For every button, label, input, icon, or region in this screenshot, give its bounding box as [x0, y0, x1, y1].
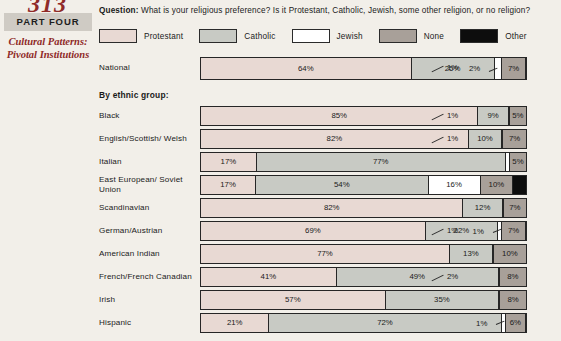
segment-other	[513, 176, 526, 194]
segment-catholic: 49%	[337, 268, 499, 286]
textbook-page: 313 PART FOUR Cultural Patterns: Pivotal…	[0, 0, 561, 341]
sliver-label-jewish: 2%	[469, 64, 480, 73]
table-row: Black85%9%5%1%	[99, 104, 561, 127]
table-row: French/French Canadian41%49%8%2%	[99, 265, 561, 288]
ethnic-rows: Black85%9%5%1%English/Scottish/ Welsh82%…	[99, 104, 561, 334]
legend-swatch-none	[379, 29, 417, 43]
segment-none: 8%	[500, 268, 526, 286]
stacked-bar: 69%22%7%1%	[200, 221, 527, 241]
callout-value: 1%	[447, 226, 458, 235]
table-row: American Indian77%13%10%	[99, 242, 561, 265]
segment-none: 7%	[503, 130, 526, 148]
callout-value: 1%	[447, 134, 458, 143]
group-header: By ethnic group:	[99, 90, 561, 100]
segment-none: 10%	[481, 176, 514, 194]
segment-protestant: 64%	[201, 58, 412, 79]
segment-protestant: 57%	[201, 291, 386, 309]
table-row: East European/ Soviet Union17%54%16%10%	[99, 173, 561, 196]
page-rail: 313 PART FOUR Cultural Patterns: Pivotal…	[0, 0, 95, 341]
part-banner-label: PART FOUR	[4, 13, 92, 31]
legend-swatch-other	[460, 29, 498, 43]
callout-other: 2%	[432, 272, 458, 281]
legend-swatch-jewish	[292, 29, 330, 43]
segment-catholic: 12%	[463, 199, 502, 217]
stacked-bar: 57%35%8%	[200, 290, 527, 310]
segment-none: 7%	[504, 199, 526, 217]
legend-label: Protestant	[144, 32, 183, 41]
segment-protestant: 82%	[201, 130, 469, 148]
part-banner: PART FOUR	[4, 13, 92, 31]
row-label: Italian	[99, 157, 200, 167]
legend-label: Catholic	[244, 32, 275, 41]
question-text: What is your religious preference? Is it…	[141, 6, 530, 15]
legend-label: Jewish	[337, 32, 363, 41]
table-row: German/Austrian69%22%7%1%1%	[99, 219, 561, 242]
stacked-bar: 85%9%5%	[200, 106, 527, 126]
segment-catholic: 35%	[386, 291, 500, 309]
segment-none: 7%	[502, 222, 526, 240]
row-label: English/Scottish/ Welsh	[99, 134, 200, 144]
segment-catholic: 9%	[478, 107, 508, 125]
legend-swatch-catholic	[199, 29, 237, 43]
segment-protestant: 77%	[201, 245, 450, 263]
segment-protestant: 21%	[201, 314, 269, 332]
segment-protestant: 17%	[201, 153, 257, 171]
segment-catholic: 13%	[450, 245, 493, 263]
segment-jewish: 16%	[429, 176, 481, 194]
callout-other: 1%	[432, 134, 458, 143]
table-row: Irish57%35%8%	[99, 288, 561, 311]
table-row: Hispanic21%72%6%1%	[99, 311, 561, 334]
segment-catholic: 54%	[256, 176, 429, 194]
row-label: American Indian	[99, 249, 200, 259]
legend-item-catholic: Catholic	[199, 29, 275, 43]
stacked-bar: 77%13%10%	[200, 244, 527, 264]
stacked-bar: 21%72%6%1%	[200, 313, 527, 333]
legend-item-none: None	[379, 29, 444, 43]
row-label: Irish	[99, 295, 200, 305]
national-block: National64%25%7%2%1%	[99, 55, 561, 81]
segment-none: 5%	[510, 153, 526, 171]
stacked-bar: 64%25%7%2%	[200, 57, 527, 80]
segment-protestant: 82%	[201, 199, 463, 217]
row-label: National	[99, 63, 200, 73]
segment-catholic: 72%	[269, 314, 501, 332]
table-row: Scandinavian82%12%7%	[99, 196, 561, 219]
stacked-bar-chart: National64%25%7%2%1% By ethnic group: Bl…	[99, 55, 561, 334]
segment-none: 6%	[506, 314, 526, 332]
stacked-bar: 17%54%16%10%	[200, 175, 527, 195]
legend-swatch-protestant	[99, 29, 137, 43]
callout-value: 1%	[447, 111, 458, 120]
row-label: German/Austrian	[99, 226, 200, 236]
segment-none: 5%	[510, 107, 526, 125]
row-label: Black	[99, 111, 200, 121]
table-row: Italian17%77%5%	[99, 150, 561, 173]
sliver-label-jewish: 1%	[476, 318, 487, 327]
segment-none: 10%	[494, 245, 526, 263]
question-line: Question: What is your religious prefere…	[99, 6, 557, 16]
callout-other: 1%	[432, 111, 458, 120]
segment-catholic: 10%	[469, 130, 503, 148]
legend-item-other: Other	[460, 29, 526, 43]
stacked-bar: 17%77%5%	[200, 152, 527, 172]
segment-none: 8%	[500, 291, 526, 309]
legend-label: None	[424, 32, 444, 41]
stacked-bar: 82%12%7%	[200, 198, 527, 218]
sliver-label-jewish: 1%	[473, 226, 484, 235]
row-label: East European/ Soviet Union	[99, 175, 200, 194]
legend-item-jewish: Jewish	[292, 29, 363, 43]
question-prefix: Question:	[99, 6, 139, 15]
row-label: French/French Canadian	[99, 272, 200, 282]
legend-label: Other	[505, 32, 526, 41]
table-row: English/Scottish/ Welsh82%10%7%1%	[99, 127, 561, 150]
callout-value: 2%	[447, 272, 458, 281]
legend-item-protestant: Protestant	[99, 29, 183, 43]
part-subtitle: Cultural Patterns: Pivotal Institutions	[2, 36, 94, 61]
callout-other: 1%	[432, 63, 458, 72]
segment-none: 7%	[502, 58, 526, 79]
segment-catholic: 77%	[257, 153, 506, 171]
national-row: National64%25%7%2%1%	[99, 55, 561, 81]
segment-protestant: 17%	[201, 176, 256, 194]
chart-legend: ProtestantCatholicJewishNoneOther	[99, 26, 557, 46]
row-label: Hispanic	[99, 318, 200, 328]
segment-protestant: 41%	[201, 268, 337, 286]
